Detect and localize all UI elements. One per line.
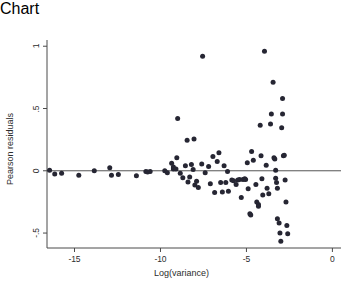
data-point — [180, 175, 185, 180]
data-point — [116, 172, 121, 177]
data-point — [234, 182, 239, 187]
data-point — [134, 173, 139, 178]
x-tick-label: 0 — [330, 254, 335, 264]
data-point — [275, 216, 280, 221]
data-point — [192, 137, 197, 142]
data-point — [258, 123, 263, 128]
data-point — [76, 173, 81, 178]
data-point — [200, 54, 205, 59]
data-point — [208, 181, 213, 186]
data-point — [199, 161, 204, 166]
data-point — [243, 177, 248, 182]
data-point — [248, 212, 253, 217]
data-point — [283, 178, 288, 183]
x-tick-label: -10 — [154, 254, 166, 264]
data-point — [212, 190, 217, 195]
data-point — [175, 116, 180, 121]
data-point — [285, 231, 290, 236]
data-point — [271, 80, 276, 85]
data-point — [52, 171, 57, 176]
data-point — [278, 239, 283, 244]
data-point — [165, 170, 170, 175]
data-point — [275, 186, 280, 191]
data-point — [210, 154, 215, 159]
data-point — [265, 186, 270, 191]
data-point — [256, 204, 261, 209]
data-point — [178, 171, 183, 176]
scatter-plot-figure: -15-10-50 1.50-.5 Log(variance) Pearson … — [0, 18, 363, 282]
x-tick-label: -5 — [243, 254, 250, 264]
data-point — [218, 180, 223, 185]
data-point — [173, 166, 178, 171]
data-point — [59, 171, 64, 176]
y-tick-label: .5 — [31, 105, 41, 112]
data-point — [107, 165, 112, 170]
data-point — [225, 169, 230, 174]
data-point — [266, 191, 271, 196]
data-point — [272, 156, 277, 161]
data-point — [284, 223, 289, 228]
data-point — [187, 175, 192, 180]
y-tick-label: 1 — [31, 44, 41, 49]
y-tick-label: -.5 — [31, 228, 41, 238]
x-axis-title: Log(variance) — [0, 268, 363, 278]
data-point — [273, 168, 278, 173]
data-point — [249, 149, 254, 154]
data-point — [245, 160, 250, 165]
data-point — [282, 153, 287, 158]
x-tick-label: -15 — [69, 254, 81, 264]
data-point — [262, 49, 267, 54]
data-point — [280, 96, 285, 101]
data-point — [259, 153, 264, 158]
data-point — [222, 163, 227, 168]
data-point — [280, 112, 285, 117]
data-point — [283, 199, 288, 204]
data-point — [259, 176, 264, 181]
data-point — [226, 189, 231, 194]
data-point — [174, 155, 179, 160]
data-point — [145, 170, 150, 175]
y-axis-title: Pearson residuals — [5, 113, 15, 185]
data-point — [268, 122, 273, 127]
data-point — [109, 173, 114, 178]
data-point-group — [47, 49, 290, 244]
data-point — [185, 138, 190, 143]
data-point — [277, 221, 282, 226]
data-point — [273, 176, 278, 181]
data-point — [253, 182, 258, 187]
y-tick-label: 0 — [31, 168, 41, 173]
data-point — [189, 162, 194, 167]
data-point — [183, 163, 188, 168]
data-point — [251, 158, 256, 163]
data-point — [185, 179, 190, 184]
data-point — [223, 180, 228, 185]
axis-lines — [47, 40, 341, 248]
data-point — [274, 180, 279, 185]
data-point — [239, 195, 244, 200]
data-point — [47, 168, 52, 173]
data-point — [206, 164, 211, 169]
tick-marks — [43, 46, 332, 252]
data-point — [279, 125, 284, 130]
data-point — [92, 168, 97, 173]
data-point — [191, 167, 196, 172]
data-point — [260, 193, 265, 198]
data-point — [196, 185, 201, 190]
data-point — [215, 159, 220, 164]
data-point — [194, 179, 199, 184]
data-point — [203, 170, 208, 175]
data-point — [246, 186, 251, 191]
data-point — [277, 231, 282, 236]
data-point — [216, 150, 221, 155]
data-point — [269, 112, 274, 117]
data-point — [220, 189, 225, 194]
plot-canvas — [0, 18, 363, 282]
data-point — [264, 163, 269, 168]
